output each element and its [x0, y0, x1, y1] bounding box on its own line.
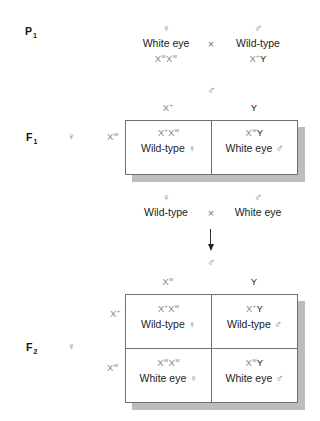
generation-label-f1: F1 [26, 131, 37, 145]
female-symbol-icon: ♀ [189, 372, 197, 384]
f1-cell-2: XwY White eye ♂ [212, 127, 297, 154]
cross-symbol-icon: × [208, 207, 214, 219]
f2-cell-4: XwY White eye ♂ [212, 357, 297, 384]
f1-cell-1: X+Xw Wild-type ♀ [126, 127, 211, 154]
p1-male-genotype: X+Y [249, 53, 266, 64]
male-symbol-icon: ♂ [254, 22, 262, 34]
female-symbol-icon: ♀ [188, 318, 196, 330]
p1-female-genotype: XwXw [155, 53, 178, 64]
arrow-head-icon [208, 244, 214, 251]
p1-male-phenotype: Wild-type [236, 37, 280, 49]
female-symbol-icon: ♀ [67, 340, 75, 352]
f1-col-header-1: X+ [163, 102, 173, 113]
f2-cell-3: XwXw White eye ♀ [126, 357, 211, 384]
arrow-down-icon [210, 229, 211, 245]
grid-divider [126, 348, 297, 349]
f2-row-header-2: Xw [107, 362, 118, 373]
f1-female-phenotype: Wild-type [144, 206, 188, 218]
male-symbol-icon: ♂ [274, 318, 282, 330]
cross-symbol-icon: × [208, 38, 214, 50]
f1-punnett-square: X+Xw Wild-type ♀ XwY White eye ♂ [125, 120, 298, 175]
f2-col-header-2: Y [251, 276, 258, 287]
generation-label-p1: P1 [25, 25, 37, 39]
f2-col-header-1: Xw [162, 276, 173, 287]
male-symbol-icon: ♂ [207, 84, 215, 96]
male-symbol-icon: ♂ [207, 256, 215, 268]
female-symbol-icon: ♀ [67, 130, 75, 142]
f2-punnett-square: X+Xw Wild-type ♀ X+Y Wild-type ♂ XwXw Wh… [125, 294, 298, 403]
f2-row-header-1: X+ [110, 308, 120, 319]
generation-label-f2: F2 [26, 341, 37, 355]
female-symbol-icon: ♀ [162, 191, 170, 203]
male-symbol-icon: ♂ [275, 372, 283, 384]
male-symbol-icon: ♂ [254, 191, 262, 203]
f1-row-header-1: Xw [107, 131, 118, 142]
male-symbol-icon: ♂ [275, 142, 283, 154]
f2-cell-2: X+Y Wild-type ♂ [212, 303, 297, 330]
gen-letter: P [25, 25, 32, 37]
f1-male-phenotype: White eye [235, 206, 282, 218]
female-symbol-icon: ♀ [162, 22, 170, 34]
p1-female-phenotype: White eye [143, 37, 190, 49]
female-symbol-icon: ♀ [188, 142, 196, 154]
f1-col-header-2: Y [251, 102, 258, 113]
gen-subscript: 1 [33, 32, 37, 39]
f2-cell-1: X+Xw Wild-type ♀ [126, 303, 211, 330]
